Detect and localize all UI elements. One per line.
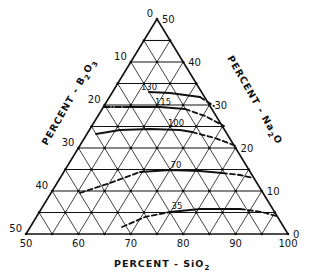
grid-node (274, 211, 277, 214)
contour-70-solid (140, 170, 222, 173)
grid-node (156, 233, 159, 236)
contour-curves: 1301151007035 (80, 82, 276, 227)
grid-node (90, 125, 93, 128)
contour-70-dashed (222, 173, 253, 178)
tick-sio2: 80 (177, 238, 190, 249)
contour-label: 70 (171, 160, 182, 170)
tick-b2o3: 10 (114, 51, 127, 62)
grid-node (287, 233, 290, 236)
grid-node (116, 211, 119, 214)
grid-node (156, 61, 159, 64)
grid-node (130, 104, 133, 107)
grid-node (77, 233, 80, 236)
grid-node (103, 233, 106, 236)
grid-node (77, 190, 80, 193)
grid-node (221, 168, 224, 171)
grid-node (182, 233, 185, 236)
contour-label: 115 (155, 97, 171, 107)
grid-node (103, 190, 106, 193)
grid-node (182, 147, 185, 150)
grid-node (90, 211, 93, 214)
grid-node (247, 211, 250, 214)
grid-line-diagonal (209, 170, 248, 235)
axis-title-sio2: PERCENT - SiO2 (114, 258, 210, 272)
axis-title-na2o: PERCENT - Na2O (223, 54, 285, 148)
tick-na2o: 20 (241, 143, 254, 154)
grid-node (208, 147, 211, 150)
grid-node (77, 147, 80, 150)
grid-node (90, 168, 93, 171)
grid-line-diagonal (92, 127, 158, 235)
grid-node (103, 147, 106, 150)
grid-node (182, 104, 185, 107)
grid-node (64, 168, 67, 171)
grid-node (169, 82, 172, 85)
tick-b2o3: 20 (88, 94, 101, 105)
grid-node (234, 147, 237, 150)
grid-node (208, 190, 211, 193)
grid-node (261, 190, 264, 193)
grid-node (64, 211, 67, 214)
contour-100-solid (96, 129, 192, 134)
tick-b2o3: 0 (147, 8, 153, 19)
grid-node (130, 61, 133, 64)
grid-node (234, 233, 237, 236)
grid-node (143, 39, 146, 42)
tick-sio2: 60 (72, 238, 85, 249)
grid-node (38, 211, 41, 214)
grid-node (116, 168, 119, 171)
tick-na2o: 50 (162, 14, 175, 25)
grid-node (143, 125, 146, 128)
grid-node (25, 233, 28, 236)
tick-b2o3: 50 (9, 223, 22, 234)
grid-line-diagonal (39, 213, 52, 235)
grid-node (247, 168, 250, 171)
contour-label: 35 (172, 201, 183, 211)
grid-node (130, 233, 133, 236)
grid-node (143, 211, 146, 214)
tick-na2o: 10 (267, 186, 280, 197)
grid-node (195, 211, 198, 214)
grid-node (51, 190, 54, 193)
tick-sio2: 90 (229, 238, 242, 249)
grid-node (208, 233, 211, 236)
grid-node (221, 211, 224, 214)
ternary-diagram: 1301151007035 01020304050504030201005060… (0, 0, 309, 280)
grid-line-diagonal (65, 170, 104, 235)
tick-sio2: 50 (20, 238, 33, 249)
grid-node (116, 125, 119, 128)
grid-node (116, 82, 119, 85)
grid-node (103, 104, 106, 107)
grid-node (51, 233, 54, 236)
tick-b2o3: 40 (35, 180, 48, 191)
grid-line-diagonal (157, 127, 223, 235)
contour-label: 130 (141, 82, 157, 92)
ternary-plot: 1301151007035 01020304050504030201005060… (0, 0, 309, 280)
grid-node (261, 233, 264, 236)
grid-node (156, 147, 159, 150)
grid-node (130, 147, 133, 150)
tick-na2o: 30 (214, 100, 227, 111)
grid-node (143, 168, 146, 171)
grid-node (195, 82, 198, 85)
grid-node (156, 190, 159, 193)
grid-node (195, 125, 198, 128)
tick-sio2: 70 (124, 238, 137, 249)
grid-node (234, 190, 237, 193)
grid-node (130, 190, 133, 193)
triangle-grid (25, 18, 290, 236)
grid-node (182, 190, 185, 193)
contour-label: 100 (168, 118, 184, 128)
grid-node (182, 61, 185, 64)
tick-sio2: 100 (278, 238, 297, 249)
tick-na2o: 40 (188, 57, 201, 68)
grid-node (169, 39, 172, 42)
tick-b2o3: 30 (62, 137, 75, 148)
grid-node (156, 18, 159, 21)
